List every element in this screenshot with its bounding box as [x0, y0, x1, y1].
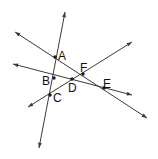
intersection-point-a — [53, 55, 56, 58]
point-label-c: C — [53, 92, 62, 104]
line-left-to-right-arrowhead-start — [13, 63, 19, 67]
intersection-point-c — [48, 93, 51, 96]
point-label-a: A — [58, 50, 66, 62]
line-upperleft-to-lowerright-arrowhead-end — [142, 114, 147, 118]
arrowheads-group — [13, 12, 147, 148]
intersection-point-b — [52, 76, 55, 79]
line-lowerleft-to-upperright-arrowhead-end — [127, 42, 132, 46]
line-upperleft-to-lowerright-arrowhead-start — [15, 32, 20, 36]
line-left-to-right-arrowhead-end — [126, 92, 132, 96]
point-label-d: D — [68, 82, 77, 94]
point-label-b: B — [42, 75, 50, 87]
geometry-figure: ABCDEF — [0, 0, 158, 159]
point-label-e: E — [103, 78, 111, 90]
point-label-f: F — [80, 62, 87, 74]
figure-canvas — [0, 0, 158, 159]
lines-group — [13, 12, 147, 148]
line-lowerleft-to-upperright-arrowhead-start — [28, 103, 33, 107]
